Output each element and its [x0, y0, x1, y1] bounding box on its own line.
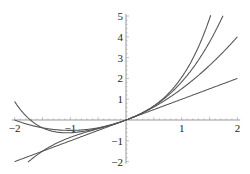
function-plot: −2−112−2−112345: [0, 0, 250, 174]
x-tick-label: 2: [235, 122, 241, 134]
y-tick-label: 4: [118, 31, 124, 43]
x-tick-label: 1: [179, 122, 185, 134]
curve-p4: [15, 15, 211, 133]
y-tick-label: −1: [111, 135, 123, 147]
y-tick-label: 1: [118, 93, 124, 105]
y-tick-label: −2: [111, 156, 123, 168]
y-tick-label: 5: [118, 10, 124, 22]
curve-p3: [28, 16, 223, 162]
axes: −2−112−2−112345: [9, 10, 240, 168]
y-tick-label: 2: [118, 72, 124, 84]
x-tick-label: −2: [9, 122, 21, 134]
y-tick-label: 3: [118, 52, 124, 64]
